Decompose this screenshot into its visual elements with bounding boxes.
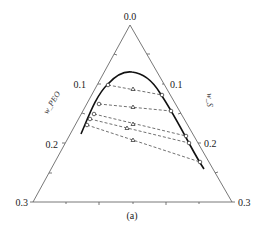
apex-label: 0.0 xyxy=(124,11,137,22)
circle-marker xyxy=(187,141,191,145)
triangle-marker xyxy=(131,122,135,126)
right-axis-title: w_S xyxy=(205,93,214,106)
circle-marker xyxy=(85,123,89,127)
tie-line-4 xyxy=(90,119,189,143)
circle-marker xyxy=(169,109,173,113)
left-tick-label-0.2: 0.2 xyxy=(46,139,59,150)
phase-points xyxy=(85,83,202,164)
tie-line-2 xyxy=(99,104,171,111)
circle-marker xyxy=(198,160,202,164)
circle-marker xyxy=(92,112,96,116)
left-tick-label-0.1: 0.1 xyxy=(74,79,87,90)
right-tick-label-0.3: 0.3 xyxy=(238,197,251,208)
tie-line-3 xyxy=(94,114,186,136)
tie-lines xyxy=(87,85,200,162)
right-tick-label-0.2: 0.2 xyxy=(204,138,217,149)
binodal-curve xyxy=(81,72,204,169)
circle-marker xyxy=(88,117,92,121)
circle-marker xyxy=(97,102,101,106)
left-tick-label-0.3: 0.3 xyxy=(16,197,29,208)
left-axis-title: w_PEO xyxy=(41,90,62,116)
circle-marker xyxy=(184,134,188,138)
circle-marker xyxy=(160,93,164,97)
triangle-frame xyxy=(33,25,232,202)
feed-points xyxy=(125,87,135,142)
triangle-marker xyxy=(125,126,129,130)
bottom-axis-ticks xyxy=(30,202,235,205)
triangle-marker xyxy=(131,105,135,109)
circle-marker xyxy=(106,83,110,87)
ternary-phase-diagram: 0.0 0.1 0.2 0.3 0.1 0.2 0.3 w_PEO w_S xyxy=(0,0,263,234)
triangle-marker xyxy=(131,87,135,91)
figure-caption: (a) xyxy=(126,210,137,222)
right-tick-label-0.1: 0.1 xyxy=(170,79,183,90)
right-axis-ticks xyxy=(147,54,218,173)
triangle-marker xyxy=(131,138,135,142)
left-axis-ticks xyxy=(49,54,117,173)
